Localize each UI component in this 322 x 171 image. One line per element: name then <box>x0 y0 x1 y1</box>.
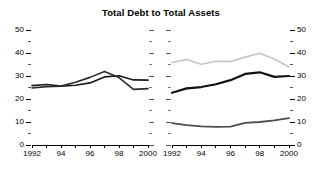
x-tick-label: 2000 <box>275 150 303 158</box>
data-line-series-b <box>32 71 148 89</box>
y-tick-label: 20 <box>297 95 322 103</box>
data-line-series-e <box>172 118 289 127</box>
x-tick-label: 98 <box>246 150 274 158</box>
y-tick-label: 50 <box>297 26 322 34</box>
y-tick-label: 0 <box>297 141 322 149</box>
data-line-series-c <box>172 53 289 67</box>
y-tick-label: 40 <box>0 49 24 57</box>
y-tick-label: 10 <box>297 118 322 126</box>
x-tick-label: 94 <box>187 150 215 158</box>
y-tick-label: 20 <box>0 95 24 103</box>
y-tick-label: 50 <box>0 26 24 34</box>
x-tick-label: 96 <box>217 150 245 158</box>
y-tick-label: 40 <box>297 49 322 57</box>
y-tick-label: 10 <box>0 118 24 126</box>
left-chart-panel: 0102030405019929496982000 <box>0 0 163 171</box>
y-tick-label: 0 <box>0 141 24 149</box>
right-chart-panel: 0102030405019929496982000 <box>163 0 322 171</box>
y-tick-label: 30 <box>297 72 322 80</box>
x-tick-label: 1992 <box>158 150 186 158</box>
data-line-series-d <box>172 72 289 92</box>
x-tick-label: 98 <box>105 150 133 158</box>
y-tick-label: 30 <box>0 72 24 80</box>
chart-page: Total Debt to Total Assets 0102030405019… <box>0 0 322 171</box>
x-tick-label: 1992 <box>18 150 46 158</box>
left-plot-area <box>0 0 163 171</box>
x-tick-label: 96 <box>76 150 104 158</box>
x-tick-label: 94 <box>47 150 75 158</box>
